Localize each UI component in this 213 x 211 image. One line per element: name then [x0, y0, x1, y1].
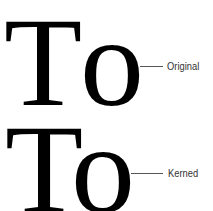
letter-o-kerned: o	[71, 105, 135, 211]
kerned-example: T o Kerned	[0, 105, 213, 210]
original-example: T o Original	[0, 0, 213, 105]
label-original: Original	[167, 61, 199, 72]
leader-line-original	[140, 66, 163, 67]
leader-line-kerned	[131, 173, 163, 174]
label-kerned: Kerned	[168, 168, 198, 179]
